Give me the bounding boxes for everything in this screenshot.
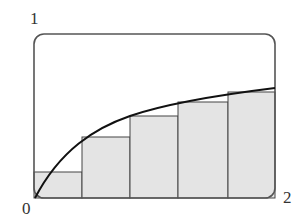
x-max-label: 2 xyxy=(283,189,292,206)
y-max-label: 1 xyxy=(30,10,39,27)
origin-label: 0 xyxy=(22,200,31,217)
bar-2 xyxy=(82,137,130,198)
riemann-sum-diagram xyxy=(0,0,299,220)
bar-1 xyxy=(34,172,82,198)
bar-5 xyxy=(228,92,275,198)
bar-4 xyxy=(178,102,228,198)
bar-3 xyxy=(130,116,178,198)
